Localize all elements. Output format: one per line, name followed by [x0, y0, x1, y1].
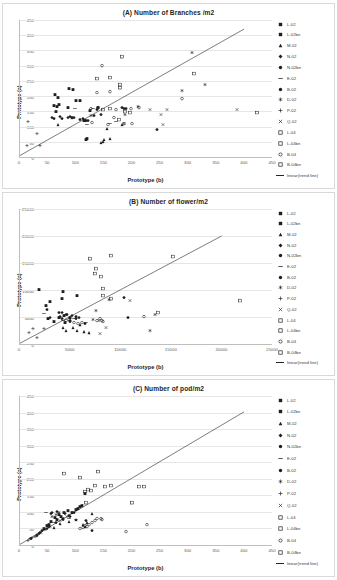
legend-item-e-02[interactable]: E-02 [276, 74, 331, 82]
legend-item-n-02[interactable]: N-02 [276, 241, 331, 249]
legend-item-b-04[interactable]: B-04 [276, 337, 331, 345]
data-point [64, 327, 68, 332]
plot-frame-a [19, 20, 272, 158]
legend-item-b-04bn[interactable]: B-04bn [276, 161, 331, 169]
legend-item-m-02[interactable]: M-02 [276, 230, 331, 238]
data-point [103, 484, 107, 489]
x-axis-title-a: Prototype (b) [19, 177, 272, 183]
legend-item-q-02[interactable]: Q-02 [276, 118, 331, 126]
legend-item-trendline[interactable]: linear(trend line) [276, 172, 331, 180]
legend-item-d-02[interactable]: D-02 [276, 96, 331, 104]
legend-item-p-02[interactable]: P-02 [276, 490, 331, 498]
legend-item-l-04[interactable]: L-04 [276, 128, 331, 136]
data-point [159, 112, 163, 117]
data-point [65, 311, 69, 316]
legend-item-n-02bn[interactable]: N-02bn [276, 443, 331, 451]
data-point [95, 76, 99, 81]
data-point [42, 311, 46, 316]
legend-item-n-02bn[interactable]: N-02bn [276, 252, 331, 260]
legend-item-l-02bn[interactable]: L-02bn [276, 31, 331, 39]
data-point [42, 325, 46, 330]
legend-item-m-02[interactable]: M-02 [276, 42, 331, 50]
data-point [120, 54, 124, 59]
cross-icon [276, 118, 284, 126]
legend-item-m-02[interactable]: M-02 [276, 419, 331, 427]
data-point [72, 509, 76, 514]
legend-item-b-04[interactable]: B-04 [276, 150, 331, 158]
data-point [94, 308, 98, 313]
legend-item-n-02[interactable]: N-02 [276, 53, 331, 61]
legend-item-label: N-02 [287, 433, 296, 438]
x-tick-label: 100 [72, 160, 79, 165]
legend-item-b-02[interactable]: B-02 [276, 85, 331, 93]
legend-item-label: L-04 [287, 130, 296, 135]
legend-item-label: P-02 [287, 108, 296, 113]
data-point [129, 106, 133, 111]
legend-item-e-02[interactable]: E-02 [276, 455, 331, 463]
legend-item-l-02[interactable]: L-02 [276, 20, 331, 28]
legend-item-b-04[interactable]: B-04 [276, 536, 331, 544]
data-point [100, 63, 104, 68]
legend-item-label: P-02 [287, 296, 296, 301]
legend-item-b-04bn[interactable]: B-04bn [276, 548, 331, 556]
legend-item-q-02[interactable]: Q-02 [276, 501, 331, 509]
open-square-icon [276, 161, 284, 169]
legend-item-label: B-04bn [287, 350, 301, 355]
legend-item-l-02[interactable]: L-02 [276, 396, 331, 404]
data-point [88, 488, 92, 493]
legend-item-label: P-02 [287, 491, 296, 496]
legend-item-b-02[interactable]: B-02 [276, 466, 331, 474]
plot-area-a [19, 20, 272, 158]
data-point [96, 468, 100, 473]
data-point [35, 335, 39, 340]
legend-item-label: B-04bn [287, 162, 301, 167]
figure-sheet: (A) Number of Branches /m2 Prototype (a)… [0, 0, 337, 580]
data-point [95, 90, 99, 95]
data-point [99, 112, 103, 117]
data-point [126, 315, 130, 320]
legend-item-n-02[interactable]: N-02 [276, 431, 331, 439]
legend-item-label: E-02 [287, 456, 296, 461]
x-tick-label: 250 [156, 160, 163, 165]
legend-item-l-04[interactable]: L-04 [276, 513, 331, 521]
legend-item-trendline[interactable]: linear(trend line) [276, 560, 331, 568]
data-point [93, 483, 97, 488]
legend-item-p-02[interactable]: P-02 [276, 107, 331, 115]
dash-icon [276, 74, 284, 82]
data-point [75, 293, 79, 298]
open-square-icon [276, 525, 284, 533]
legend-item-label: Q-02 [287, 119, 297, 124]
legend-item-label: B-02 [287, 468, 296, 473]
legend-item-p-02[interactable]: P-02 [276, 295, 331, 303]
legend-item-q-02[interactable]: Q-02 [276, 305, 331, 313]
legend-item-trendline[interactable]: linear(trend line) [276, 359, 331, 367]
legend-item-label: D-02 [287, 479, 296, 484]
legend-item-e-02[interactable]: E-02 [276, 263, 331, 271]
legend-item-l-02bn[interactable]: L-02bn [276, 408, 331, 416]
data-point [156, 310, 160, 315]
legend-item-b-04bn[interactable]: B-04bn [276, 348, 331, 356]
legend-item-l-02[interactable]: L-02 [276, 209, 331, 217]
dash-icon [276, 263, 284, 271]
plot-area-c [19, 396, 272, 546]
data-point [101, 285, 105, 290]
legend-item-l-04bn[interactable]: L-04bn [276, 327, 331, 335]
filled-circle-icon [276, 466, 284, 474]
legend-item-n-02bn[interactable]: N-02bn [276, 63, 331, 71]
legend-item-l-04bn[interactable]: L-04bn [276, 525, 331, 533]
trend-line-icon [276, 172, 284, 180]
data-point [108, 106, 112, 111]
asterisk-icon [276, 96, 284, 104]
legend-item-d-02[interactable]: D-02 [276, 284, 331, 292]
legend-item-l-04[interactable]: L-04 [276, 316, 331, 324]
legend-item-d-02[interactable]: D-02 [276, 478, 331, 486]
data-point [50, 513, 54, 518]
legend-item-l-02bn[interactable]: L-02bn [276, 220, 331, 228]
legend-item-l-04bn[interactable]: L-04bn [276, 139, 331, 147]
data-point [71, 87, 75, 92]
legend-item-b-02[interactable]: B-02 [276, 273, 331, 281]
open-square-icon [276, 128, 284, 136]
cross-icon [276, 501, 284, 509]
data-point [142, 313, 146, 318]
data-point [124, 529, 128, 534]
